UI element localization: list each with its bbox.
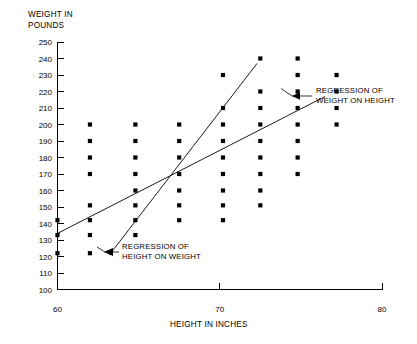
- data-point: [133, 139, 137, 143]
- y-tick-label: 160: [39, 187, 53, 196]
- data-point: [334, 73, 338, 77]
- data-point: [221, 155, 225, 159]
- data-point: [177, 155, 181, 159]
- data-point: [258, 106, 262, 110]
- x-axis-title: HEIGHT IN INCHES: [170, 320, 248, 329]
- data-point: [334, 106, 338, 110]
- regression-lines: [58, 63, 326, 254]
- regression-of-height-on-weight: [109, 63, 257, 254]
- regression-of-weight-on-height: [58, 96, 326, 233]
- data-point: [88, 233, 92, 237]
- y-axis-tick-labels: 1001101201301401501601701801902002102202…: [39, 38, 53, 295]
- data-point: [88, 172, 92, 176]
- x-axis-tick-labels: 607080: [53, 305, 387, 314]
- data-point: [133, 155, 137, 159]
- weight-on-height-label-line2: WEIGHT ON HEIGHT: [316, 96, 395, 105]
- y-tick-label: 240: [39, 55, 53, 64]
- data-point: [258, 172, 262, 176]
- y-tick-label: 230: [39, 71, 53, 80]
- data-point: [258, 155, 262, 159]
- y-tick-label: 110: [39, 269, 52, 278]
- data-point: [177, 188, 181, 192]
- y-tick-label: 130: [39, 236, 53, 245]
- y-tick-label: 150: [39, 203, 53, 212]
- data-point: [296, 122, 300, 126]
- data-point: [177, 139, 181, 143]
- x-tick-label: 80: [378, 305, 387, 314]
- y-tick-label: 140: [39, 220, 53, 229]
- data-point: [258, 139, 262, 143]
- data-point: [296, 56, 300, 60]
- x-tick-label: 60: [53, 305, 62, 314]
- data-point: [258, 122, 262, 126]
- data-point: [221, 73, 225, 77]
- y-tick-label: 100: [39, 286, 53, 295]
- data-point: [55, 218, 59, 222]
- data-point: [221, 139, 225, 143]
- data-point: [55, 233, 59, 237]
- data-point: [88, 251, 92, 255]
- weight-on-height-annotation: REGRESSION OF WEIGHT ON HEIGHT: [281, 86, 395, 105]
- data-point: [88, 155, 92, 159]
- y-tick-label: 180: [39, 154, 53, 163]
- data-point: [221, 203, 225, 207]
- data-point: [133, 122, 137, 126]
- data-point: [133, 172, 137, 176]
- data-point: [133, 203, 137, 207]
- y-tick-label: 190: [39, 137, 53, 146]
- height-on-weight-annotation: REGRESSION OF HEIGHT ON WEIGHT: [97, 242, 201, 261]
- y-tick-label: 250: [39, 38, 53, 47]
- data-point: [88, 218, 92, 222]
- data-point: [221, 172, 225, 176]
- data-point: [88, 122, 92, 126]
- data-point: [334, 122, 338, 126]
- y-tick-label: 210: [39, 104, 53, 113]
- data-point: [177, 172, 181, 176]
- data-point: [258, 56, 262, 60]
- data-point: [88, 139, 92, 143]
- data-point: [258, 203, 262, 207]
- height-on-weight-label-line2: HEIGHT ON WEIGHT: [122, 252, 201, 261]
- height-on-weight-label-line1: REGRESSION OF: [122, 242, 189, 251]
- data-point: [258, 89, 262, 93]
- x-axis-ticks: [58, 283, 383, 290]
- data-point: [296, 172, 300, 176]
- y-axis-title-line2: POUNDS: [28, 21, 65, 30]
- data-point: [177, 122, 181, 126]
- data-point: [177, 218, 181, 222]
- data-point: [55, 251, 59, 255]
- y-tick-label: 170: [39, 170, 53, 179]
- y-tick-label: 200: [39, 121, 53, 130]
- scatter-chart: WEIGHT IN POUNDS HEIGHT IN INCHES 100110…: [0, 0, 417, 344]
- data-point: [88, 203, 92, 207]
- data-point: [258, 188, 262, 192]
- data-point: [133, 233, 137, 237]
- data-point: [296, 139, 300, 143]
- y-tick-label: 120: [39, 253, 53, 262]
- data-point: [221, 218, 225, 222]
- weight-on-height-label-line1: REGRESSION OF: [316, 86, 383, 95]
- y-axis-title-line1: WEIGHT IN: [28, 10, 73, 19]
- y-tick-label: 220: [39, 88, 53, 97]
- data-point: [221, 122, 225, 126]
- data-point: [177, 203, 181, 207]
- data-point: [296, 73, 300, 77]
- data-point: [296, 155, 300, 159]
- chart-canvas: WEIGHT IN POUNDS HEIGHT IN INCHES 100110…: [0, 0, 417, 344]
- data-point: [221, 188, 225, 192]
- x-tick-label: 70: [215, 305, 224, 314]
- data-point: [133, 188, 137, 192]
- data-points: [55, 56, 338, 255]
